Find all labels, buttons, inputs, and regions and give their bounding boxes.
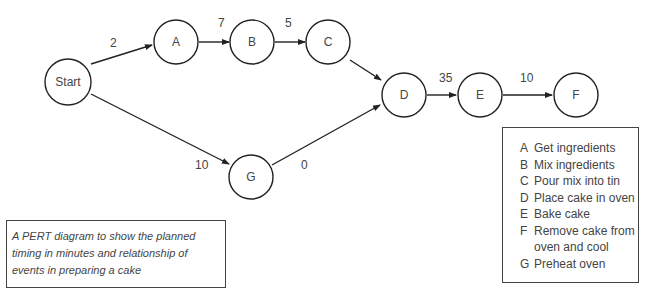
edge-label-e-f: 10 — [520, 71, 534, 85]
node-f: F — [554, 73, 598, 117]
caption-box: A PERT diagram to show the planned timin… — [6, 220, 226, 288]
legend-text: Place cake in oven — [534, 190, 635, 207]
edge-start-a — [91, 45, 152, 64]
svg-text:G: G — [246, 170, 255, 184]
edge-label-d-e: 35 — [439, 71, 453, 85]
legend-text: Mix ingredients — [534, 157, 615, 174]
edge-g-d — [272, 105, 380, 165]
legend-item: A Get ingredients — [520, 140, 638, 157]
legend-key: B — [520, 157, 534, 174]
edge-start-g — [91, 94, 229, 164]
node-b: B — [230, 20, 274, 64]
svg-text:D: D — [400, 88, 409, 102]
svg-text:E: E — [476, 88, 484, 102]
node-e: E — [458, 73, 502, 117]
edge-c-d — [350, 60, 381, 80]
legend-text: Preheat oven — [534, 256, 605, 273]
svg-text:F: F — [572, 88, 579, 102]
legend-box: A Get ingredients B Mix ingredients C Po… — [502, 127, 639, 283]
edge-label-start-a: 2 — [110, 36, 117, 50]
edge-label-b-c: 5 — [285, 16, 292, 30]
legend-text: Remove cake from oven and cool — [534, 223, 635, 256]
legend-key: D — [520, 190, 534, 207]
node-start: Start — [45, 59, 91, 105]
legend-key: E — [520, 206, 534, 223]
legend-item: F Remove cake from oven and cool — [520, 223, 638, 256]
node-a: A — [154, 20, 198, 64]
legend-text: Pour mix into tin — [534, 173, 620, 190]
legend-item: C Pour mix into tin — [520, 173, 638, 190]
edge-label-g-d: 0 — [301, 158, 308, 172]
svg-text:Start: Start — [55, 75, 81, 89]
node-d: D — [382, 73, 426, 117]
legend-key: F — [520, 223, 534, 256]
svg-text:C: C — [324, 35, 333, 49]
legend-item: B Mix ingredients — [520, 157, 638, 174]
edge-label-start-g: 10 — [195, 158, 209, 172]
legend-item: E Bake cake — [520, 206, 638, 223]
svg-text:B: B — [248, 35, 256, 49]
node-g: G — [229, 155, 273, 199]
node-c: C — [306, 20, 350, 64]
edge-label-a-b: 7 — [218, 16, 225, 30]
legend-item: D Place cake in oven — [520, 190, 638, 207]
legend-key: G — [520, 256, 534, 273]
legend-key: A — [520, 140, 534, 157]
legend-key: C — [520, 173, 534, 190]
caption-text: A PERT diagram to show the planned timin… — [12, 230, 195, 276]
legend-item: G Preheat oven — [520, 256, 638, 273]
svg-text:A: A — [172, 35, 180, 49]
legend-text: Bake cake — [534, 206, 590, 223]
legend-text: Get ingredients — [534, 140, 615, 157]
